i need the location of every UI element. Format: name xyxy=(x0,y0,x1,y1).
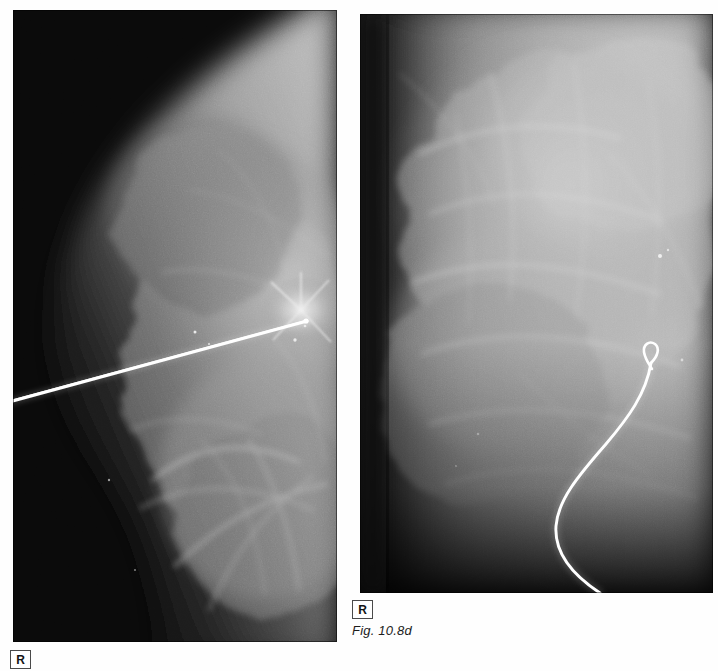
film-grain xyxy=(13,10,337,642)
mammogram-right-image xyxy=(360,14,713,593)
laterality-marker-left: R xyxy=(10,650,31,669)
laterality-marker-right: R xyxy=(352,600,373,619)
figure-container: R R Fig. 10.8d xyxy=(0,0,718,671)
figure-caption: Fig. 10.8d xyxy=(352,623,412,638)
mammogram-left xyxy=(13,10,337,642)
film-grain xyxy=(360,14,713,593)
mammogram-right xyxy=(360,14,713,593)
mammogram-left-image xyxy=(13,10,337,642)
